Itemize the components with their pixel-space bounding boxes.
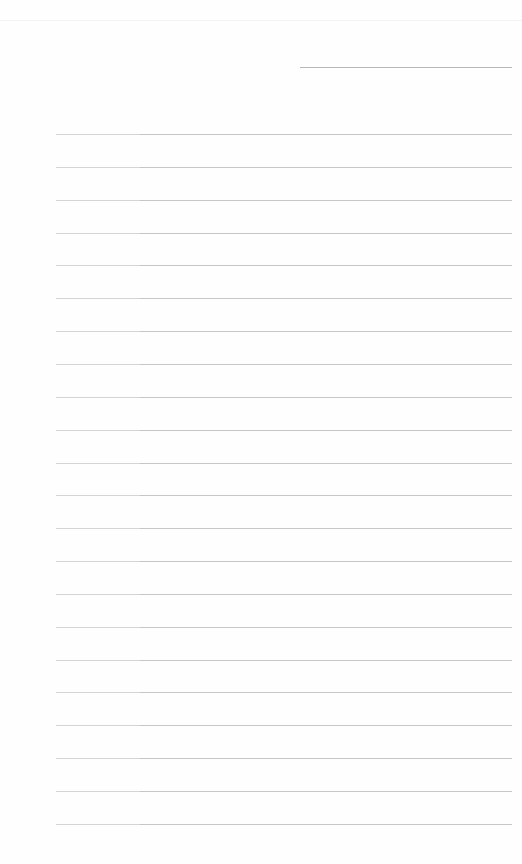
header-date-line — [300, 67, 512, 68]
ruled-line-faint-segment — [56, 528, 140, 529]
ruled-line — [56, 660, 512, 661]
ruled-line-faint-segment — [56, 725, 140, 726]
ruled-line — [56, 298, 512, 299]
ruled-line — [56, 725, 512, 726]
ruled-line-faint-segment — [56, 463, 140, 464]
ruled-line-faint-segment — [56, 200, 140, 201]
ruled-line-faint-segment — [56, 331, 140, 332]
lined-paper-page — [0, 0, 522, 864]
ruled-line — [56, 594, 512, 595]
scan-artifact-edge — [0, 20, 522, 21]
ruled-line — [56, 692, 512, 693]
ruled-line — [56, 134, 512, 135]
ruled-line — [56, 331, 512, 332]
ruled-line-faint-segment — [56, 397, 140, 398]
ruled-line — [56, 495, 512, 496]
ruled-line — [56, 463, 512, 464]
ruled-line-faint-segment — [56, 233, 140, 234]
ruled-line-faint-segment — [56, 660, 140, 661]
ruled-line — [56, 528, 512, 529]
ruled-line — [56, 167, 512, 168]
ruled-line-faint-segment — [56, 758, 140, 759]
ruled-line — [56, 758, 512, 759]
ruled-line-faint-segment — [56, 824, 140, 825]
ruled-line-faint-segment — [56, 167, 140, 168]
ruled-line-faint-segment — [56, 627, 140, 628]
ruled-line — [56, 824, 512, 825]
ruled-line — [56, 364, 512, 365]
ruled-line-faint-segment — [56, 495, 140, 496]
ruled-line — [56, 430, 512, 431]
ruled-line — [56, 561, 512, 562]
ruled-line-faint-segment — [56, 791, 140, 792]
ruled-line-faint-segment — [56, 561, 140, 562]
ruled-line-faint-segment — [56, 364, 140, 365]
ruled-line-faint-segment — [56, 430, 140, 431]
ruled-line — [56, 397, 512, 398]
ruled-line — [56, 200, 512, 201]
ruled-line-faint-segment — [56, 594, 140, 595]
ruled-line-faint-segment — [56, 134, 140, 135]
ruled-line-faint-segment — [56, 692, 140, 693]
ruled-line — [56, 791, 512, 792]
ruled-line-faint-segment — [56, 298, 140, 299]
ruled-line-faint-segment — [56, 265, 140, 266]
ruled-line — [56, 265, 512, 266]
ruled-line — [56, 233, 512, 234]
ruled-line — [56, 627, 512, 628]
